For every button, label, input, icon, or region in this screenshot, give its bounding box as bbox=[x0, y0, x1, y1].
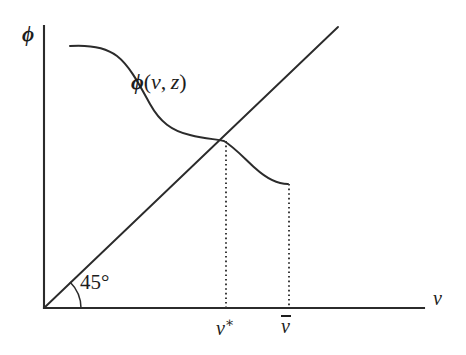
curve-label: ϕ(v, z) bbox=[131, 71, 187, 93]
curve-label-open-paren: ( bbox=[144, 69, 151, 94]
curve-label-arg-v: v bbox=[151, 69, 161, 94]
phi-function-curve bbox=[70, 46, 288, 184]
phase-diagram-svg bbox=[0, 0, 466, 355]
forty-five-degree-line bbox=[44, 27, 338, 308]
curve-label-close-paren: ) bbox=[179, 69, 186, 94]
figure-canvas: ϕ v ϕ(v, z) 45° v∗ v bbox=[0, 0, 466, 355]
curve-label-arg-z: z bbox=[171, 69, 180, 94]
tick-label-v-star-base: v bbox=[216, 317, 225, 339]
tick-label-v-star: v∗ bbox=[216, 316, 234, 338]
angle-label: 45° bbox=[80, 272, 109, 293]
y-axis-label: ϕ bbox=[22, 24, 34, 45]
x-axis-label: v bbox=[433, 288, 442, 308]
curve-label-phi: ϕ bbox=[131, 69, 144, 94]
tick-label-v-bar: v bbox=[281, 314, 290, 336]
tick-label-v-bar-base: v bbox=[281, 314, 290, 336]
tick-label-v-star-superscript: ∗ bbox=[225, 315, 235, 330]
curve-label-comma: , bbox=[161, 69, 171, 94]
